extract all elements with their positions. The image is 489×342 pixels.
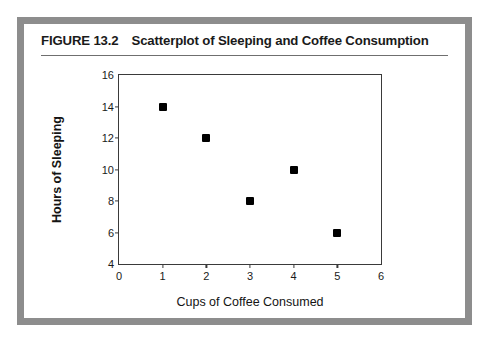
x-tick-label: 0 <box>116 270 122 282</box>
x-tick-label: 5 <box>334 270 340 282</box>
y-tick-label: 16 <box>102 69 114 81</box>
figure-outer-border: FIGURE 13.2Scatterplot of Sleeping and C… <box>17 17 472 325</box>
title-divider <box>41 55 448 56</box>
y-tick-mark <box>115 232 119 233</box>
y-tick-mark <box>115 137 119 138</box>
y-axis-title: Hours of Sleeping <box>48 74 66 265</box>
y-tick-label: 6 <box>108 227 114 239</box>
y-tick-label: 8 <box>108 195 114 207</box>
data-point <box>290 166 298 174</box>
x-tick-label: 2 <box>203 270 209 282</box>
y-tick-mark <box>115 169 119 170</box>
plot-frame: 468101214160123456 <box>118 74 382 265</box>
y-tick-label: 4 <box>108 258 114 270</box>
x-tick-mark <box>249 264 250 268</box>
x-tick-mark <box>162 264 163 268</box>
x-tick-label: 4 <box>291 270 297 282</box>
y-tick-mark <box>115 106 119 107</box>
figure-number: FIGURE 13.2 <box>41 33 119 48</box>
figure-title: FIGURE 13.2Scatterplot of Sleeping and C… <box>41 33 429 48</box>
x-tick-mark <box>206 264 207 268</box>
figure-card: FIGURE 13.2Scatterplot of Sleeping and C… <box>24 24 465 318</box>
x-tick-label: 3 <box>247 270 253 282</box>
data-point <box>159 103 167 111</box>
x-axis-title: Cups of Coffee Consumed <box>118 295 382 309</box>
y-tick-label: 14 <box>102 101 114 113</box>
x-tick-label: 1 <box>160 270 166 282</box>
y-tick-label: 10 <box>102 164 114 176</box>
y-tick-mark <box>115 200 119 201</box>
data-point <box>246 197 254 205</box>
x-tick-mark <box>293 264 294 268</box>
figure-title-text: Scatterplot of Sleeping and Coffee Consu… <box>132 33 429 48</box>
x-tick-label: 6 <box>378 270 384 282</box>
data-point <box>202 134 210 142</box>
chart-plot-region: Hours of Sleeping 468101214160123456 Cup… <box>24 60 465 318</box>
x-tick-mark <box>337 264 338 268</box>
data-point <box>333 229 341 237</box>
y-tick-label: 12 <box>102 132 114 144</box>
